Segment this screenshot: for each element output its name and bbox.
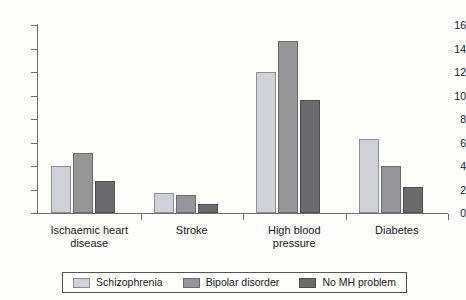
y-axis-tick bbox=[31, 25, 37, 26]
y-axis-label: 0 bbox=[438, 208, 466, 219]
y-axis-tick bbox=[31, 49, 37, 50]
legend-item: Bipolar disorder bbox=[183, 277, 280, 288]
legend: SchizophreniaBipolar disorderNo MH probl… bbox=[62, 272, 407, 293]
bar bbox=[198, 204, 218, 213]
bar bbox=[176, 195, 196, 213]
y-axis-tick bbox=[31, 96, 37, 97]
bar bbox=[300, 100, 320, 213]
category-label-line: Ischaemic heart bbox=[38, 224, 141, 237]
bar bbox=[154, 193, 174, 213]
category-label: High bloodpressure bbox=[243, 224, 346, 250]
y-axis-tick bbox=[31, 143, 37, 144]
y-axis-label: 2 bbox=[438, 185, 466, 196]
y-axis-label: 16 bbox=[438, 20, 466, 31]
y-axis-label: 12 bbox=[438, 67, 466, 78]
x-axis-tick bbox=[141, 214, 142, 220]
legend-label: Schizophrenia bbox=[96, 277, 163, 288]
bar bbox=[381, 166, 401, 213]
y-axis-tick bbox=[31, 119, 37, 120]
bar bbox=[73, 153, 93, 213]
category-label: Diabetes bbox=[346, 224, 449, 237]
x-axis-tick bbox=[346, 214, 347, 220]
category-label-line: Diabetes bbox=[346, 224, 449, 237]
y-axis-line bbox=[37, 24, 38, 214]
y-axis-label: 14 bbox=[438, 44, 466, 55]
bar bbox=[95, 181, 115, 213]
bar bbox=[256, 72, 276, 213]
bar-chart: 0246810121416 Ischaemic heartdiseaseStro… bbox=[0, 0, 466, 300]
x-axis-tick bbox=[448, 214, 449, 220]
legend-label: Bipolar disorder bbox=[206, 277, 280, 288]
legend-swatch-icon bbox=[183, 278, 200, 288]
category-label: Ischaemic heartdisease bbox=[38, 224, 141, 250]
y-axis-tick bbox=[31, 72, 37, 73]
category-label-line: High blood bbox=[243, 224, 346, 237]
y-axis-label: 6 bbox=[438, 138, 466, 149]
bar bbox=[51, 166, 71, 213]
y-axis-tick bbox=[31, 213, 37, 214]
legend-swatch-icon bbox=[299, 278, 316, 288]
y-axis-tick bbox=[31, 166, 37, 167]
bar bbox=[278, 41, 298, 213]
category-label-line: disease bbox=[38, 237, 141, 250]
legend-swatch-icon bbox=[73, 278, 90, 288]
y-axis-label: 4 bbox=[438, 161, 466, 172]
bar bbox=[359, 139, 379, 213]
legend-item: No MH problem bbox=[299, 277, 396, 288]
y-axis-label: 10 bbox=[438, 91, 466, 102]
y-axis-tick bbox=[31, 190, 37, 191]
category-label: Stroke bbox=[141, 224, 244, 237]
x-axis-tick bbox=[243, 214, 244, 220]
legend-label: No MH problem bbox=[322, 277, 396, 288]
category-label-line: Stroke bbox=[141, 224, 244, 237]
bar bbox=[403, 187, 423, 213]
legend-item: Schizophrenia bbox=[73, 277, 163, 288]
y-axis-label: 8 bbox=[438, 114, 466, 125]
category-label-line: pressure bbox=[243, 237, 346, 250]
